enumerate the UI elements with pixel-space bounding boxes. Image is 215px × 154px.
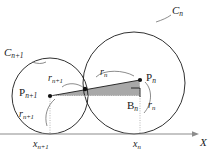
label-radius-rn-plus-1-bottom: rn+1 (19, 109, 34, 119)
label-point-pn: Pn (146, 72, 156, 83)
label-axis-tick-xn: xn (133, 139, 141, 149)
label-x-axis: X (200, 137, 207, 148)
label-point-bn: Bn (127, 100, 138, 111)
label-point-pn-sub: n (152, 76, 156, 85)
label-radius-rn-top: rn (100, 67, 107, 77)
label-axis-tick-xn-plus-1: xn+1 (33, 139, 48, 149)
leader-stroke-cn (156, 15, 171, 22)
leader-arc-rnp1-bottom (46, 99, 55, 126)
label-axis-tick-xn-plus-1-sub: n+1 (37, 143, 48, 150)
label-point-pn-plus-1: Pn+1 (19, 87, 37, 98)
point-marker-pn-plus-1 (48, 94, 52, 98)
figure-canvas: Cn+1 Cn Pn+1 Pn Bn rn rn rn+1 rn+1 xn+1 … (0, 0, 215, 154)
label-radius-rn-plus-1-top-sub: n+1 (52, 77, 63, 84)
point-marker-tangency (83, 87, 88, 92)
point-marker-pn (138, 78, 142, 82)
label-radius-rn-plus-1-bottom-sub: n+1 (23, 113, 34, 120)
x-axis-arrowhead (192, 131, 199, 137)
label-circle-cn-sub: n (179, 9, 183, 18)
label-radius-rn-right-sub: n (152, 104, 155, 111)
label-circle-cn: Cn (172, 5, 183, 16)
leader-arc-rnp1-top (62, 84, 84, 88)
label-circle-cn-plus-1-sub: n+1 (11, 51, 23, 60)
label-radius-rn-plus-1-top: rn+1 (48, 73, 63, 83)
label-radius-rn-top-sub: n (104, 71, 107, 78)
label-x-axis-base: X (200, 136, 207, 148)
leader-stroke-cn-plus-1 (32, 62, 46, 64)
label-point-pn-plus-1-sub: n+1 (25, 91, 37, 100)
label-point-bn-sub: n (134, 104, 138, 113)
geometry-diagram (0, 0, 215, 154)
label-circle-cn-plus-1: Cn+1 (4, 47, 23, 58)
label-radius-rn-right: rn (148, 100, 155, 110)
label-axis-tick-xn-sub: n (137, 143, 140, 150)
